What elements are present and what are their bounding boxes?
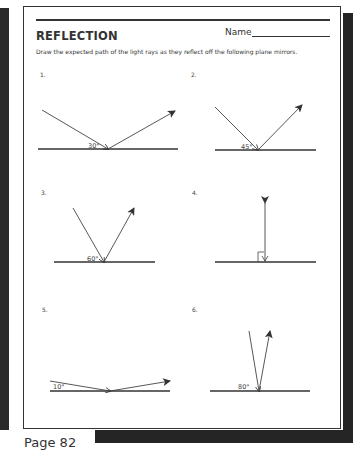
reflected-ray [110,381,170,391]
reflected-ray [258,105,302,150]
reflected-ray [259,331,270,391]
angle-label-1: 30° [88,142,100,150]
angle-label-3: 60° [87,255,99,263]
incident-ray [73,208,104,262]
reflected-ray [104,208,134,262]
angle-label-6: 80° [238,383,250,391]
incident-ray [249,331,259,391]
angle-label-2: 45° [241,143,253,151]
right-angle-mark [258,252,264,262]
diagram-4 [215,203,316,262]
reflected-ray [108,111,175,149]
page-number: Page 82 [24,435,76,450]
diagram-2 [215,105,316,150]
angle-label-5: 10° [53,383,65,391]
diagram-6 [210,331,310,391]
diagram-1 [38,110,178,149]
diagram-3 [54,208,155,262]
diagram-5 [50,381,170,391]
